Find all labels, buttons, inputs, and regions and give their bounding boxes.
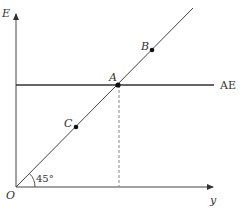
45-degree-line xyxy=(16,8,193,187)
point-b-label: B xyxy=(140,40,149,53)
keynesian-cross-diagram: E y O AE A B C 45° xyxy=(0,0,242,210)
y-axis-label: E xyxy=(1,7,10,20)
point-b xyxy=(150,48,155,53)
point-c xyxy=(74,125,79,130)
point-c-label: C xyxy=(64,117,73,130)
point-a-label: A xyxy=(108,71,117,84)
x-axis-label: y xyxy=(209,194,217,207)
angle-label: 45° xyxy=(36,173,54,184)
origin-label: O xyxy=(6,189,15,202)
ae-label: AE xyxy=(219,79,236,92)
angle-arc xyxy=(30,174,36,188)
